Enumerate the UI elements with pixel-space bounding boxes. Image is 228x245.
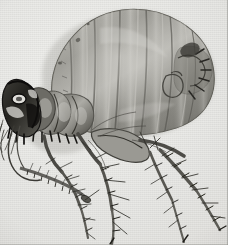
flea-photomicrograph [0, 0, 228, 245]
antenna [20, 163, 92, 204]
hindleg-secondary-tarsus [172, 200, 184, 242]
flea-drawing [0, 0, 228, 245]
hindleg [91, 129, 226, 242]
specimen-layer [0, 0, 228, 245]
eye-pupil [16, 97, 22, 101]
hindleg-tarsus [196, 190, 220, 230]
midleg-tibia [100, 164, 112, 210]
right-edge-line [227, 0, 228, 245]
